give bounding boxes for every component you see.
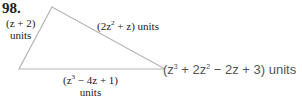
left-side-unit: units	[6, 29, 35, 41]
triangle-figure	[0, 0, 302, 100]
bottom-expr-start: (z	[63, 74, 72, 86]
perimeter-expr-end: − 2z + 3) units	[210, 62, 296, 77]
top-expr-start: (2z	[97, 20, 111, 32]
perimeter-expr-mid: + 2z	[178, 62, 207, 77]
perimeter-expr-start: (z	[163, 62, 174, 77]
bottom-side-expression: (z3 − 4z + 1)	[63, 74, 118, 86]
bottom-side-unit: units	[63, 86, 118, 98]
bottom-expr-end: − 4z + 1)	[75, 74, 118, 86]
top-expr-end: + z) units	[115, 20, 159, 32]
problem-number: 98.	[2, 0, 21, 17]
bottom-side-label: (z3 − 4z + 1) units	[63, 74, 118, 98]
perimeter-label: (z3 + 2z2 − 2z + 3) units	[163, 62, 296, 77]
triangle	[19, 7, 165, 69]
left-side-expression: (z + 2)	[6, 17, 35, 29]
left-side-label: (z + 2) units	[6, 17, 35, 41]
top-side-label: (2z2 + z) units	[97, 20, 159, 32]
